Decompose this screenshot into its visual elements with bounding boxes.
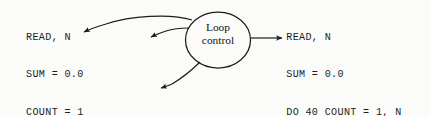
loop-control-label-line: control xyxy=(186,34,250,47)
loop-control-label-line: Loop xyxy=(186,21,250,34)
while-loop-pseudocode: READ, N SUM = 0.0 COUNT = 1 WHILE (COUNT… xyxy=(26,7,173,116)
code-line: SUM = 0.0 xyxy=(26,69,173,81)
code-line: DO 40 COUNT = 1, N xyxy=(267,107,408,116)
figure-canvas: READ, N SUM = 0.0 COUNT = 1 WHILE (COUNT… xyxy=(0,0,430,116)
code-line: READ, N xyxy=(26,32,173,44)
loop-control-label: Loop control xyxy=(186,21,250,47)
fortran-do-loop: READ, N SUM = 0.0 DO 40 COUNT = 1, N REA… xyxy=(267,7,408,116)
code-line: COUNT = 1 xyxy=(26,107,173,116)
code-line: READ, N xyxy=(267,32,408,44)
code-line: SUM = 0.0 xyxy=(267,69,408,81)
